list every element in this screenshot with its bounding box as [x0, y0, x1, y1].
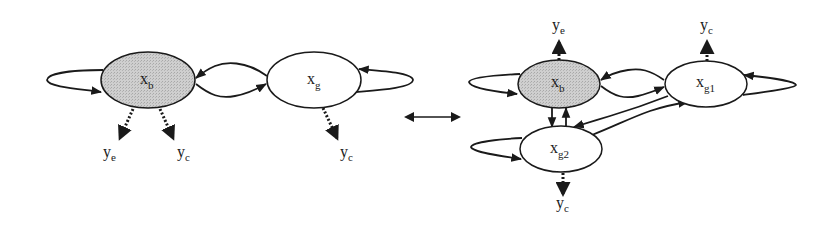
- edge-xg-to-xb-left: [196, 63, 267, 78]
- edge-xb-to-xg-left: [196, 84, 266, 97]
- self-loop-xg-left: [356, 69, 413, 92]
- output-label-ye-right: ye: [552, 16, 565, 36]
- output-label-yc-xg2: yc: [556, 194, 569, 214]
- state-diagram: xb xg ye yc yc xb xg1 xg2: [0, 0, 836, 230]
- output-arrow-xb-ye: [120, 109, 133, 138]
- edge-xb-to-xg1: [601, 86, 664, 97]
- output-arrow-xb-yc: [160, 109, 173, 138]
- output-label-ye-left: ye: [103, 143, 116, 163]
- output-arrow-xg-yc: [323, 108, 337, 138]
- self-loop-xg1: [743, 75, 796, 95]
- output-label-yc-xb-left: yc: [177, 143, 190, 163]
- output-label-yc-xg-left: yc: [340, 143, 353, 163]
- right-graph: [469, 42, 796, 194]
- self-loop-xb-right: [469, 74, 520, 94]
- self-loop-xg2: [471, 138, 522, 159]
- equivalence-double-arrow: [404, 112, 461, 122]
- edge-xg1-to-xb: [601, 69, 664, 80]
- output-label-yc-xg1: yc: [700, 16, 713, 36]
- self-loop-xb-left: [47, 70, 103, 92]
